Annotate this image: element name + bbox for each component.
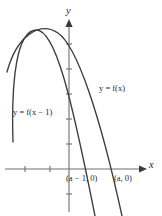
x-axis-label: x	[149, 160, 154, 171]
point-label-a: (a, 0)	[114, 174, 132, 183]
point-label-a-minus-1: (a − 1, 0)	[66, 174, 97, 183]
y-axis-arrowhead	[65, 19, 72, 27]
curve-y-equals-f-of-x-minus-1	[13, 30, 95, 216]
curve-label-f-of-x-minus-1: y = f(x − 1)	[13, 108, 52, 117]
x-axis	[5, 165, 147, 172]
function-translation-figure: y x y = f(x) y = f(x − 1) (a − 1, 0) (a,…	[0, 0, 162, 216]
curve-label-f-of-x: y = f(x)	[99, 84, 125, 93]
y-axis-label: y	[66, 6, 71, 17]
curve-y-equals-f-of-x	[7, 29, 122, 216]
x-axis-arrowhead	[139, 165, 147, 172]
y-axis	[65, 19, 72, 212]
